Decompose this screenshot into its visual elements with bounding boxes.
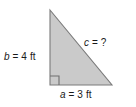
label-side-a-value: = 3 ft xyxy=(66,89,92,100)
label-side-b-value: = 4 ft xyxy=(10,51,36,62)
triangle-figure: b = 4 ft c = ? a = 3 ft xyxy=(0,0,136,107)
label-side-c: c = ? xyxy=(84,37,106,49)
label-side-b: b = 4 ft xyxy=(4,51,36,63)
label-side-c-value: = ? xyxy=(89,37,106,48)
label-side-a: a = 3 ft xyxy=(60,89,92,101)
